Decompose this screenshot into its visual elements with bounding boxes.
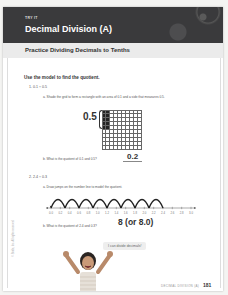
section-title: Practice Dividing Decimals to Tenths xyxy=(25,47,130,53)
tick-label: 2.8 xyxy=(180,211,184,215)
page-number: 181 xyxy=(203,282,211,288)
tick-label: 1.4 xyxy=(114,211,118,215)
problem-1-answer[interactable]: 0.2 xyxy=(123,152,142,162)
number-line[interactable]: 0.00.20.40.60.81.01.21.41.61.82.02.22.42… xyxy=(45,192,197,217)
grid-border xyxy=(102,110,142,150)
lesson-title: Decimal Division (A) xyxy=(25,24,112,34)
problem-1-part-a: a. Shade the grid to form a rectangle wi… xyxy=(43,95,173,100)
hundred-grid[interactable] xyxy=(102,110,142,150)
problem-1-part-b: b. What is the quotient of 0.1 and 0.5? xyxy=(43,157,97,161)
instruction: Use the model to find the quotient. xyxy=(24,75,100,80)
tick-label: 0.4 xyxy=(68,211,72,215)
tick-label: 2.2 xyxy=(152,211,156,215)
copyright-text: © Stride, Inc. All rights reserved. xyxy=(12,220,15,257)
tick-label: 1.0 xyxy=(96,211,100,215)
problem-2-part-a: a. Draw jumps on the number line to mode… xyxy=(43,185,122,189)
tick-label: 0.2 xyxy=(58,211,62,215)
tick-label: 1.2 xyxy=(105,211,109,215)
worksheet-page: TRY IT Decimal Division (A) Practice Div… xyxy=(3,7,223,291)
tick-label: 2.6 xyxy=(170,211,174,215)
jump-arc xyxy=(135,200,149,209)
tick-label: 0.8 xyxy=(86,211,90,215)
problem-2-part-b: b. What is the quotient of 2.4 and 0.3? xyxy=(43,224,97,228)
arrow-right-icon xyxy=(194,207,196,209)
student-illustration-icon xyxy=(58,247,118,291)
arrow-left-icon xyxy=(46,207,48,209)
tick-label: 1.6 xyxy=(124,211,128,215)
footer-label: DECIMAL DIVISION (A) xyxy=(161,284,199,288)
grid-side-label: 0.5 xyxy=(83,111,97,122)
lesson-header: TRY IT Decimal Division (A) xyxy=(3,7,223,43)
problem-2-answer[interactable]: 8 (or 8.0) xyxy=(118,217,153,227)
tick-label: 1.8 xyxy=(133,211,137,215)
jump-arc xyxy=(107,200,121,209)
tick-label: 0.6 xyxy=(77,211,81,215)
jump-arc xyxy=(93,200,107,209)
jump-arc xyxy=(79,200,93,209)
lesson-tag: TRY IT xyxy=(25,16,38,20)
section-band: Practice Dividing Decimals to Tenths xyxy=(3,43,223,58)
tick-label: 2.4 xyxy=(161,211,165,215)
tick-label: 0.0 xyxy=(49,211,53,215)
tick-label: 2.0 xyxy=(142,211,146,215)
tick-label: 3.0 xyxy=(189,211,193,215)
jump-arc xyxy=(121,200,135,209)
jump-arc xyxy=(65,200,79,209)
jump-arc xyxy=(149,200,163,209)
problem-1-label: 1. 0.1 ÷ 0.5 xyxy=(29,85,47,89)
jump-arc xyxy=(51,200,65,209)
problem-2-label: 2. 2.4 ÷ 0.3 xyxy=(29,175,47,179)
